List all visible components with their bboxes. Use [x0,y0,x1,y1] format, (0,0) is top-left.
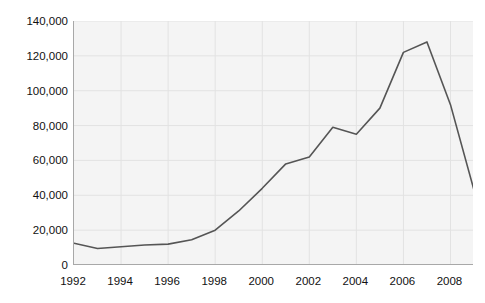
chart-title [0,0,485,4]
x-axis-tick-label: 1994 [98,274,142,288]
y-axis-tick-label: 120,000 [0,50,68,62]
y-axis-tick-label: 60,000 [0,154,68,166]
y-axis-tick-label: 80,000 [0,120,68,132]
plot-area [73,21,473,265]
x-axis-tick-label: 2004 [333,274,377,288]
series-polyline [74,42,473,249]
x-axis-tick-label: 1998 [192,274,236,288]
y-axis: 020,00040,00060,00080,000100,000120,0001… [0,0,68,303]
x-axis-tick-label: 1992 [51,274,95,288]
y-axis-tick-label: 100,000 [0,85,68,97]
x-axis-tick-label: 1996 [145,274,189,288]
x-axis-tick-label: 2000 [239,274,283,288]
line-chart-figure: 020,00040,00060,00080,000100,000120,0001… [0,0,485,303]
data-series-line [74,21,473,265]
y-axis-tick-label: 140,000 [0,15,68,27]
y-axis-tick-label: 40,000 [0,189,68,201]
x-axis: 199219941996199820002002200420062008 [0,274,485,294]
x-axis-tick-label: 2006 [380,274,424,288]
x-axis-tick-label: 2002 [286,274,330,288]
y-axis-tick-label: 20,000 [0,224,68,236]
x-axis-tick-label: 2008 [427,274,471,288]
y-axis-tick-label: 0 [0,259,68,271]
